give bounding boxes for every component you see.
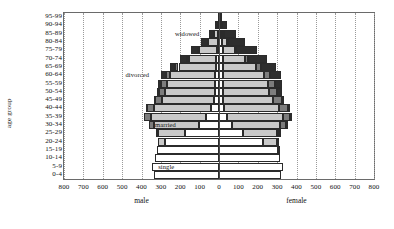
bar-segment-male-single [206,113,219,121]
bar-segment-male-married [158,138,165,146]
bar-segment-female-divorced [277,138,279,146]
bar-segment-female-divorced [283,113,291,121]
bar-segment-female-divorced [280,121,285,129]
y-axis-title: age group [2,78,16,148]
annotation-married: married [155,121,176,129]
y-tick-50-54: 50-54 [45,87,62,95]
bar-segment-female-married [227,113,283,121]
y-tick-80-84: 80-84 [45,37,62,45]
bar-segment-male-single [185,129,219,137]
x-tick-3: 500 [117,183,128,192]
bar-segment-male-single [199,121,219,129]
y-tick-70-74: 70-74 [45,54,62,62]
y-axis-tick-labels: 95-9990-9485-8980-8475-7970-7465-6960-64… [30,12,62,180]
bar-segment-female-married [223,55,245,63]
bar-segment-female-married [263,138,277,146]
x-tick-9: 100 [233,183,244,192]
bar-segment-female-divorced [269,88,277,96]
zero-axis-line [219,13,220,179]
bar-segment-female-single [219,121,232,129]
y-tick-20-24: 20-24 [45,137,62,145]
bar-segment-female-widowed [279,129,281,137]
bar-segment-female-divorced [223,30,225,38]
bar-segment-male-divorced [155,96,162,104]
bar-segment-female-married [232,121,280,129]
bar-segment-female-widowed [275,80,282,88]
plot-area: widoweddivorcedmarriedsingle [63,12,375,180]
bar-segment-female-single [219,163,283,171]
bar-segment-male-widowed [191,46,198,54]
bar-segment-male-married [208,38,217,46]
x-tick-1: 700 [78,183,89,192]
bar-segment-male-single [165,138,219,146]
bar-segment-male-married [151,113,206,121]
bar-segment-female-widowed [261,63,276,71]
bar-segment-female-single [219,171,281,179]
x-tick-6: 200 [175,183,186,192]
bar-segment-male-single [157,146,219,154]
x-tick-13: 500 [310,183,321,192]
bar-segment-female-widowed [270,71,281,79]
x-tick-5: 300 [155,183,166,192]
y-tick-65-69: 65-69 [45,62,62,70]
plot-inner: widoweddivorcedmarriedsingle [64,13,374,179]
y-tick-45-49: 45-49 [45,95,62,103]
bar-segment-female-divorced [227,38,229,46]
bar-segment-female-married [224,104,279,112]
annotation-single: single [158,163,174,171]
bar-segment-female-divorced [279,104,288,112]
bar-segment-female-single [219,146,278,154]
side-label-left: male [134,196,149,206]
bar-segment-male-married [167,80,215,88]
x-axis-side-labels: malefemale [63,196,375,208]
bar-segment-female-widowed [286,121,288,129]
x-tick-12: 400 [291,183,302,192]
x-tick-7: 100 [194,183,205,192]
bar-segment-female-widowed [277,88,281,96]
bar-segment-female-widowed [248,55,267,63]
bar-segment-female-married [223,63,256,71]
x-tick-15: 700 [349,183,360,192]
bar-segment-male-single [154,171,219,179]
bar-segment-male-married [165,88,214,96]
x-tick-4: 400 [136,183,147,192]
bar-segment-male-married [162,96,214,104]
bar-segment-male-divorced [147,104,154,112]
bar-segment-female-single [219,154,280,162]
bar-segment-female-widowed [224,30,236,38]
bar-segment-female-widowed [282,96,285,104]
x-tick-14: 600 [330,183,341,192]
bar-segment-female-married [243,129,277,137]
y-tick-85-89: 85-89 [45,29,62,37]
bar-segment-male-widowed [180,55,187,63]
y-tick-30-34: 30-34 [45,120,62,128]
x-axis-tick-labels: 8007006005004003002001000100200300400500… [63,183,375,193]
x-tick-16: 800 [369,183,380,192]
bar-segment-female-married [278,146,280,154]
bar-segment-female-married [223,88,270,96]
bar-segment-female-widowed [236,46,256,54]
x-tick-8: 0 [217,183,221,192]
bar-segment-female-divorced [268,80,275,88]
bar-segment-female-married [223,96,273,104]
bar-segment-male-single [211,104,219,112]
bar-segment-female-married [223,71,264,79]
y-tick-90-94: 90-94 [45,20,62,28]
bar-segment-male-married [170,71,215,79]
bar-segment-female-divorced [245,55,248,63]
side-label-right: female [286,196,306,206]
bar-segment-male-married [199,46,217,54]
bar-segment-male-married [154,104,211,112]
bar-segment-female-divorced [235,46,237,54]
bar-segment-male-single [155,154,219,162]
bar-segment-female-married [223,80,268,88]
y-tick-40-44: 40-44 [45,103,62,111]
bar-segment-female-widowed [288,104,290,112]
x-tick-0: 800 [59,183,70,192]
bar-segment-female-single [219,138,263,146]
bar-segment-female-divorced [264,71,270,79]
bar-segment-male-married [179,63,216,71]
y-tick-10-14: 10-14 [45,153,62,161]
x-tick-10: 200 [252,183,263,192]
bar-segment-male-married [189,55,216,63]
